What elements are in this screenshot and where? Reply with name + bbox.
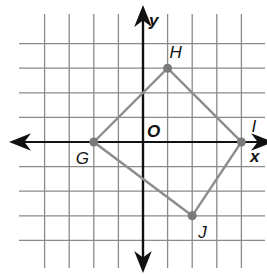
y-axis-label: y — [148, 11, 160, 30]
point-label-I: I — [251, 117, 256, 136]
axes — [20, 16, 262, 262]
point-I — [237, 138, 246, 147]
origin-label: O — [147, 122, 160, 141]
coordinate-plane: GHIJOxy — [0, 0, 267, 274]
labels: GHIJOxy — [76, 11, 261, 242]
x-axis-label: x — [249, 147, 261, 166]
point-H — [163, 64, 172, 73]
point-label-J: J — [197, 223, 207, 242]
point-J — [188, 211, 197, 220]
point-label-G: G — [76, 149, 89, 168]
point-label-H: H — [170, 43, 183, 62]
point-G — [89, 138, 98, 147]
